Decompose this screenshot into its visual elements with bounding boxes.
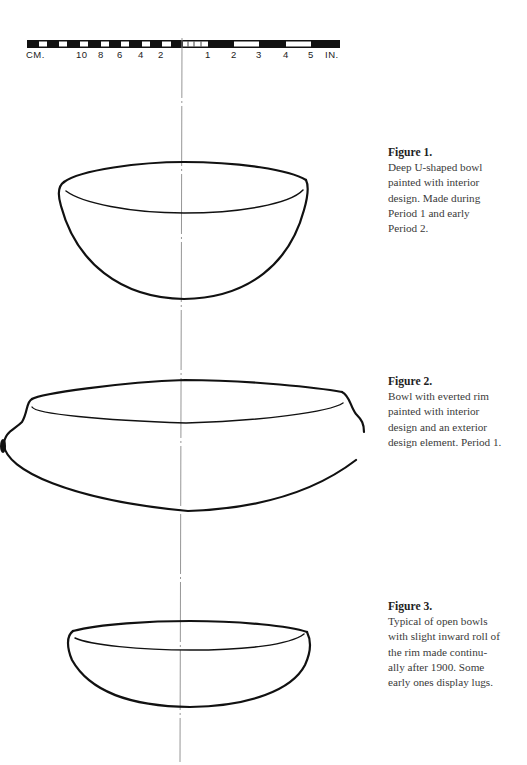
scale-in-tick: 3 — [256, 49, 262, 60]
figure-3-title: Figure 3. — [388, 599, 527, 614]
scale-in-tick: 4 — [283, 49, 289, 60]
caption-line: design and an exterior — [388, 420, 527, 435]
caption-line: Typical of open bowls — [388, 614, 527, 629]
figure-3-caption: Figure 3. Typical of open bowls with sli… — [388, 599, 527, 690]
caption-line: ally after 1900. Some — [388, 660, 527, 675]
scale-in-label: IN. — [325, 49, 339, 60]
vertical-centerline — [180, 38, 182, 762]
caption-line: with slight inward roll of — [388, 629, 527, 644]
scale-bar: CM. 10 8 6 4 2 1 2 3 4 5 IN. — [26, 40, 340, 60]
caption-line: Deep U-shaped bowl — [388, 160, 527, 175]
caption-line: Period 1 and early — [388, 206, 527, 221]
figure-2-bowl — [0, 380, 364, 511]
figure-1-caption: Figure 1. Deep U-shaped bowl painted wit… — [388, 145, 527, 236]
scale-cm-tick: 2 — [158, 49, 164, 60]
scale-in-tick: 5 — [308, 49, 314, 60]
figure-3-bowl — [68, 621, 310, 707]
caption-line: early ones display lugs. — [388, 675, 527, 690]
caption-line: design element. Period 1. — [388, 435, 527, 450]
caption-line: design. Made during — [388, 191, 527, 206]
caption-line: painted with interior — [388, 175, 527, 190]
caption-line: Period 2. — [388, 221, 527, 236]
caption-line: Bowl with everted rim — [388, 389, 527, 404]
scale-cm-label: CM. — [26, 49, 45, 60]
scale-cm-tick: 10 — [76, 49, 88, 60]
scale-cm-tick: 6 — [117, 49, 123, 60]
caption-line: painted with interior — [388, 404, 527, 419]
figure-1-bowl — [59, 162, 308, 299]
figure-2-caption: Figure 2. Bowl with everted rim painted … — [388, 374, 527, 450]
scale-in-tick: 2 — [231, 49, 237, 60]
scale-cm-tick: 4 — [138, 49, 144, 60]
figure-1-title: Figure 1. — [388, 145, 527, 160]
scale-in-tick: 1 — [205, 49, 211, 60]
lug-shape — [0, 439, 6, 453]
figure-2-title: Figure 2. — [388, 374, 527, 389]
scale-cm-tick: 8 — [98, 49, 104, 60]
caption-line: the rim made continu- — [388, 645, 527, 660]
